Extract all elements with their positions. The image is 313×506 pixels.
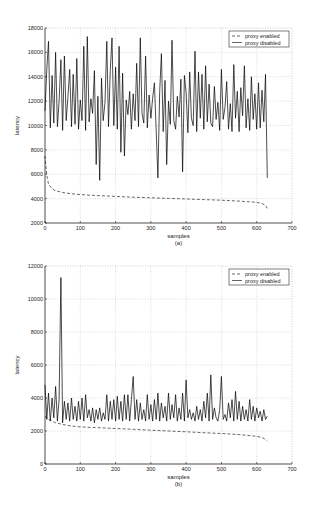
chart-caption: (b): [175, 481, 182, 487]
x-tick-label: 400: [182, 466, 191, 472]
y-tick-label: 12000: [28, 263, 43, 269]
y-tick-label: 14000: [28, 74, 43, 80]
x-tick-label: 300: [146, 225, 155, 231]
y-tick-label: 0: [40, 461, 43, 467]
x-tick-label: 600: [252, 225, 261, 231]
y-tick-label: 12000: [28, 98, 43, 104]
x-tick-label: 700: [287, 466, 296, 472]
y-tick-label: 10000: [28, 123, 43, 129]
x-tick-label: 100: [76, 225, 85, 231]
y-axis-label: latency: [14, 355, 20, 374]
series-proxy-disabled: [45, 278, 267, 423]
x-tick-label: 0: [43, 225, 46, 231]
x-tick-label: 100: [76, 466, 85, 472]
x-tick-label: 200: [111, 225, 120, 231]
x-tick-label: 600: [252, 466, 261, 472]
y-axis-label: latency: [14, 116, 20, 135]
y-tick-label: 2000: [31, 428, 43, 434]
y-tick-label: 16000: [28, 49, 43, 55]
legend-entry: proxy disabled: [245, 278, 280, 284]
series-proxy-enabled: [45, 156, 267, 208]
legend: proxy enabledproxy disabled: [229, 31, 289, 47]
figure-a: 0100200300400500600700200040006000800010…: [0, 0, 313, 252]
x-tick-label: 200: [111, 466, 120, 472]
x-tick-label: 500: [217, 225, 226, 231]
y-tick-label: 6000: [31, 362, 43, 368]
x-tick-label: 400: [182, 225, 191, 231]
legend-entry: proxy disabled: [245, 40, 280, 46]
x-axis-label: samples: [167, 474, 189, 480]
x-tick-label: 0: [43, 466, 46, 472]
y-tick-label: 10000: [28, 296, 43, 302]
chart-caption: (a): [175, 240, 182, 246]
y-tick-label: 8000: [31, 147, 43, 153]
x-tick-label: 700: [287, 225, 296, 231]
y-tick-label: 18000: [28, 25, 43, 31]
x-axis-label: samples: [167, 233, 189, 239]
x-tick-label: 500: [217, 466, 226, 472]
x-tick-label: 300: [146, 466, 155, 472]
y-tick-label: 2000: [31, 220, 43, 226]
figure-b: 0100200300400500600700020004000600080001…: [0, 252, 313, 506]
chart-a-plot: 0100200300400500600700200040006000800010…: [0, 0, 313, 252]
legend: proxy enabledproxy disabled: [229, 269, 289, 285]
y-tick-label: 4000: [31, 196, 43, 202]
y-tick-label: 4000: [31, 395, 43, 401]
legend-entry: proxy enabled: [245, 33, 280, 39]
legend-entry: proxy enabled: [245, 271, 280, 277]
chart-b-plot: 0100200300400500600700020004000600080001…: [0, 252, 313, 506]
y-tick-label: 6000: [31, 171, 43, 177]
y-tick-label: 8000: [31, 329, 43, 335]
series-proxy-disabled: [45, 37, 267, 181]
